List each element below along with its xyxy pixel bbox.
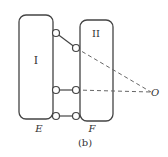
label-F: F: [88, 123, 97, 134]
caption: (b): [78, 137, 92, 148]
body-I: [19, 15, 53, 119]
label-I: I: [34, 54, 38, 67]
label-O: O: [151, 87, 159, 98]
joint-circle: [73, 45, 80, 52]
linkage-diagram: I II E F O (b): [0, 0, 168, 157]
joint-circle: [53, 113, 60, 120]
joint-circle: [53, 30, 60, 37]
joint-circle: [73, 113, 80, 120]
label-II: II: [92, 28, 100, 39]
joint-circle: [53, 87, 60, 94]
joint-circle: [73, 87, 80, 94]
label-E: E: [34, 123, 43, 134]
